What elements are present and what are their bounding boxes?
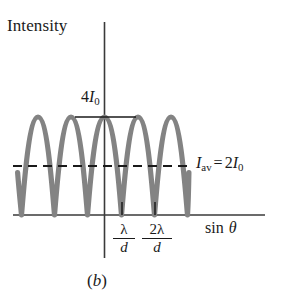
average-intensity-value-subscript: 0 <box>238 161 243 173</box>
peak-intensity-coefficient: 4 <box>81 88 89 105</box>
x-axis-label-prefix: sin <box>205 219 224 236</box>
plot-canvas <box>0 0 284 308</box>
interference-intensity-figure: Intensity 4I0 Iav=2I0 λ d 2λ d sinθ (b) <box>0 0 284 308</box>
x-tick-label-denominator: d <box>142 239 172 255</box>
average-intensity-label: Iav=2I0 <box>196 155 243 173</box>
peak-intensity-subscript: 0 <box>94 95 99 107</box>
average-intensity-subscript: av <box>201 161 211 173</box>
x-tick-label-lambda-over-d: λ d <box>113 222 135 255</box>
theta-symbol: θ <box>224 219 237 236</box>
panel-label: (b) <box>87 272 107 289</box>
x-tick-label-numerator: 2λ <box>142 222 172 239</box>
x-tick-label-numerator: λ <box>113 222 135 239</box>
x-tick-label-denominator: d <box>113 239 135 255</box>
panel-letter: b <box>93 271 102 290</box>
average-intensity-coefficient: 2 <box>225 154 233 171</box>
y-axis-label: Intensity <box>7 17 67 34</box>
equals-sign: = <box>212 154 225 171</box>
x-tick-label-two-lambda-over-d: 2λ d <box>142 222 172 255</box>
peak-intensity-label: 4I0 <box>81 89 100 107</box>
x-axis-label: sinθ <box>205 220 237 236</box>
